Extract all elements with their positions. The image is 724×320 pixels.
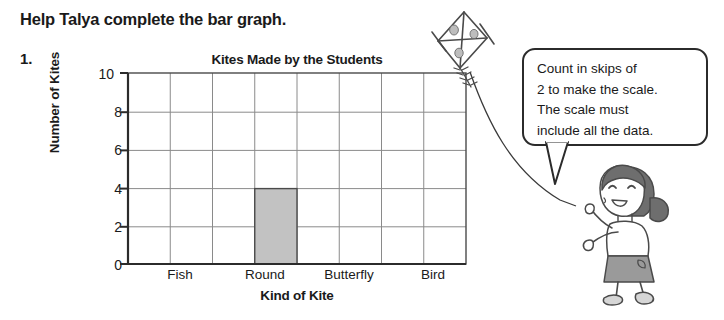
y-tick-marks bbox=[120, 73, 128, 227]
speech-bubble: Count in skips of 2 to make the scale. T… bbox=[522, 48, 708, 146]
bar-chart: Kites Made by the Students Number of Kit… bbox=[0, 0, 500, 300]
bar-round bbox=[255, 189, 297, 264]
girl-character bbox=[578, 158, 686, 310]
speech-bubble-text: Count in skips of 2 to make the scale. T… bbox=[537, 59, 706, 141]
speech-bubble-tail bbox=[532, 140, 592, 192]
plot-area bbox=[0, 0, 500, 300]
